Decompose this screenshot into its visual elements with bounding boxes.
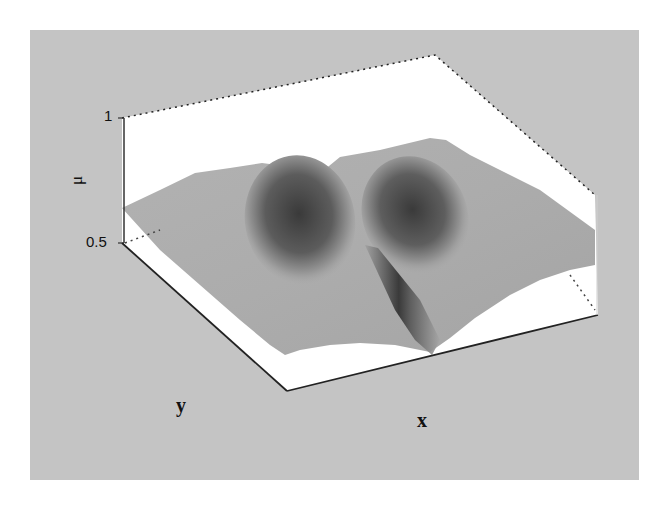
x-axis-label: x bbox=[417, 410, 427, 430]
z-tick-1: 1 bbox=[104, 108, 112, 123]
z-axis-label: μ bbox=[68, 176, 85, 185]
surface-plot bbox=[0, 0, 671, 507]
y-axis-label: y bbox=[176, 395, 186, 415]
z-tick-0-5: 0.5 bbox=[86, 234, 107, 249]
